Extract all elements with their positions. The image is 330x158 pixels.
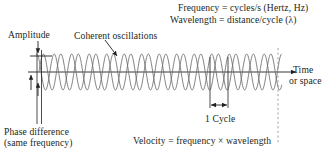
wavelength-formula: Wavelength = distance/cycle (λ) — [170, 14, 297, 25]
phase-difference-label-line1: Phase difference — [4, 126, 69, 137]
phase-difference-label-line2: (same frequency) — [4, 137, 72, 148]
axis-label-or-space: or space — [289, 75, 322, 86]
coherent-oscillations-label: Coherent oscillations — [74, 30, 157, 41]
velocity-formula: Velocity = frequency × wavelength — [133, 135, 271, 146]
axis-label-time: Time — [293, 64, 313, 75]
one-cycle-label: 1 Cycle — [205, 113, 235, 124]
wave-properties-figure: Frequency = cycles/s (Hertz, Hz) Wavelen… — [0, 0, 330, 158]
amplitude-label: Amplitude — [8, 29, 50, 40]
frequency-formula: Frequency = cycles/s (Hertz, Hz) — [178, 2, 308, 13]
